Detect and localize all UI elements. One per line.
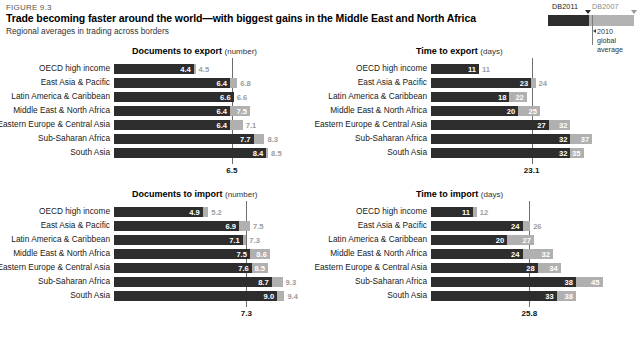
category-label: East Asia & Pacific: [358, 220, 427, 230]
value-label-db2007-new: 18: [498, 93, 506, 102]
value-label-db2007-new: 9.0: [264, 292, 275, 301]
value-label-db2007-old: 32: [542, 250, 550, 259]
category-label: South Asia: [70, 290, 110, 300]
legend-note-line-1: 2010: [597, 27, 623, 36]
category-label: Eastern Europe & Central Asia: [0, 119, 110, 129]
bar-db2011: [114, 249, 250, 259]
chart-row: East Asia & Pacific6.97.5: [114, 219, 288, 233]
chart-row: Eastern Europe & Central Asia7.68.5: [114, 261, 288, 275]
value-label-db2007-old: 34: [549, 264, 557, 273]
chart-title-unit: (number): [225, 47, 257, 56]
chart-row: Sub-Saharan Africa3237: [431, 132, 614, 146]
chart-row: Middle East & North Africa2025: [431, 104, 614, 118]
category-label: South Asia: [387, 290, 427, 300]
category-label: South Asia: [70, 147, 110, 157]
category-label: East Asia & Pacific: [41, 220, 110, 230]
chart-row: South Asia3338: [431, 289, 614, 303]
chart-row: Middle East & North Africa7.58.6: [114, 247, 288, 261]
chart-row: East Asia & Pacific2426: [431, 219, 614, 233]
value-label-db2007-old: 6.8: [240, 79, 251, 88]
bar-db2011: [114, 221, 239, 231]
figure-number: FIGURE 9.3: [6, 3, 52, 12]
value-label-db2007-new: 7.6: [238, 264, 249, 273]
category-label: Middle East & North Africa: [330, 105, 427, 115]
category-label: Sub-Saharan Africa: [355, 133, 427, 143]
chart-row: South Asia9.09.4: [114, 289, 288, 303]
category-label: Sub-Saharan Africa: [38, 133, 110, 143]
category-label: Eastern Europe & Central Asia: [314, 262, 427, 272]
bar-db2011: [114, 291, 277, 301]
legend: DB2011 DB2007 2010 global average: [548, 0, 636, 56]
bar-db2011: [114, 92, 234, 102]
bar-db2011: [431, 148, 570, 158]
bar-db2011: [431, 134, 570, 144]
chart-title-text: Documents to export: [132, 46, 225, 56]
category-label: Eastern Europe & Central Asia: [314, 119, 427, 129]
value-label-db2007-old: 6.6: [237, 93, 248, 102]
chart-title-text: Time to import: [416, 189, 481, 199]
chart-row: Latin America & Caribbean7.17.3: [114, 233, 288, 247]
category-label: Latin America & Caribbean: [328, 234, 427, 244]
value-label-db2007-new: 27: [537, 121, 545, 130]
value-label-db2007-old: 9.4: [287, 292, 298, 301]
category-label: Latin America & Caribbean: [11, 234, 110, 244]
chart-row: South Asia8.48.5: [114, 146, 288, 160]
bar-db2011: [431, 291, 557, 301]
chart-row: Sub-Saharan Africa8.79.3: [114, 275, 288, 289]
value-label-db2007-new: 6.9: [226, 222, 237, 231]
chart-title-text: Documents to import: [132, 189, 225, 199]
bar-db2011: [114, 78, 230, 88]
chart-row: Latin America & Caribbean6.66.6: [114, 90, 288, 104]
value-label-db2007-old: 11: [482, 65, 490, 74]
legend-label-db2007: DB2007: [592, 2, 619, 11]
chart-row: OECD high income1111: [431, 62, 614, 76]
category-label: Latin America & Caribbean: [11, 91, 110, 101]
bar-db2011: [114, 235, 243, 245]
legend-swatch-db2011: [548, 15, 589, 26]
value-label-db2007-old: 7.3: [249, 236, 260, 245]
value-label-db2007-new: 28: [526, 264, 534, 273]
value-label-db2007-new: 24: [511, 222, 519, 231]
value-label-db2007-new: 8.4: [253, 149, 264, 158]
value-label-db2007-new: 6.4: [216, 79, 227, 88]
chart-row: Latin America & Caribbean1822: [431, 90, 614, 104]
bar-db2011: [114, 263, 252, 273]
value-label-db2007-new: 38: [564, 278, 572, 287]
category-label: Sub-Saharan Africa: [38, 276, 110, 286]
value-label-db2007-new: 4.9: [189, 208, 200, 217]
value-label-db2007-old: 8.3: [267, 135, 278, 144]
legend-note: 2010 global average: [597, 27, 623, 54]
value-label-db2007-new: 6.4: [216, 121, 227, 130]
value-label-db2007-new: 33: [545, 292, 553, 301]
chart-row: East Asia & Pacific2324: [431, 76, 614, 90]
chart-title-time-to-export: Time to export (days): [416, 46, 503, 56]
figure-title: Trade becoming faster around the world—w…: [6, 12, 476, 24]
bar-db2011: [431, 277, 576, 287]
value-label-db2007-old: 26: [533, 222, 541, 231]
category-label: Middle East & North Africa: [330, 248, 427, 258]
value-label-db2007-old: 38: [564, 292, 572, 301]
legend-note-arrow-icon: [593, 29, 596, 33]
value-label-db2007-old: 7.5: [253, 222, 264, 231]
legend-note-line-3: average: [597, 45, 623, 54]
bar-db2011: [431, 249, 523, 259]
category-label: Eastern Europe & Central Asia: [0, 262, 110, 272]
value-label-db2007-old: 22: [515, 93, 523, 102]
chart-title-documents-to-export: Documents to export (number): [132, 46, 257, 56]
value-label-db2007-old: 37: [581, 135, 589, 144]
value-label-db2007-old: 12: [480, 208, 488, 217]
legend-note-line-2: global: [597, 36, 623, 45]
chart-row: South Asia3235: [431, 146, 614, 160]
chart-row: Middle East & North Africa2432: [431, 247, 614, 261]
bar-db2011: [431, 78, 531, 88]
value-label-db2007-new: 7.7: [240, 135, 251, 144]
value-label-db2007-new: 6.6: [220, 93, 231, 102]
value-label-db2007-old: 9.3: [286, 278, 297, 287]
chart-row: Sub-Saharan Africa7.78.3: [114, 132, 288, 146]
value-label-db2007-new: 32: [559, 149, 567, 158]
value-label-db2007-new: 23: [520, 79, 528, 88]
value-label-db2007-old: 8.5: [271, 149, 282, 158]
value-label-db2007-new: 11: [462, 208, 470, 217]
reference-line-value-documents-to-import: 7.3: [241, 309, 252, 318]
value-label-db2007-new: 24: [511, 250, 519, 259]
